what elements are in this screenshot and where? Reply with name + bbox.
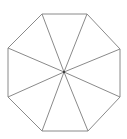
octagon-diagram [0,0,127,139]
center-point [63,71,65,73]
spoke-line-3 [64,49,120,72]
spoke-line-2 [64,14,87,72]
spoke-line-1 [42,14,64,72]
spoke-line-8 [8,48,64,72]
